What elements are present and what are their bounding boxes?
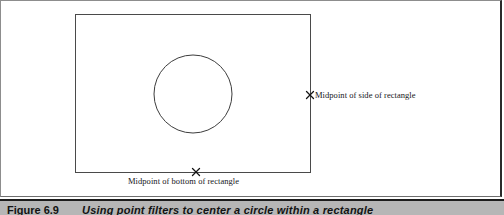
midpoint-side-label: Midpoint of side of rectangle xyxy=(315,90,416,100)
caption-inner: Figure 6.9 Using point filters to center… xyxy=(0,201,504,215)
outer-rectangle xyxy=(76,15,311,173)
figure-container: Midpoint of side of rectangle Midpoint o… xyxy=(0,0,504,215)
centered-circle xyxy=(154,55,232,133)
diagram-canvas xyxy=(0,0,504,198)
midpoint-bottom-label: Midpoint of bottom of rectangle xyxy=(128,176,239,186)
figure-caption-text: Using point filters to center a circle w… xyxy=(82,204,373,215)
figure-number: Figure 6.9 xyxy=(7,204,59,215)
figure-caption-bar: Figure 6.9 Using point filters to center… xyxy=(0,199,504,215)
